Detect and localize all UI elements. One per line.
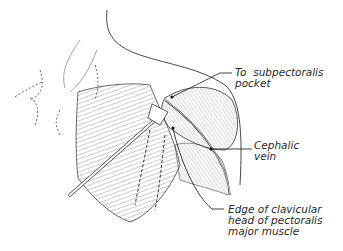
label-line: major muscle	[228, 225, 299, 237]
label-line: pocket	[235, 77, 271, 89]
label-subpectoralis-pocket: To subpectoralispocket	[235, 67, 324, 89]
label-line: vein	[254, 150, 276, 162]
label-pectoralis-edge: Edge of clavicularhead of pectoralismajo…	[228, 204, 323, 237]
label-cephalic-vein: Cephalicvein	[254, 140, 299, 162]
